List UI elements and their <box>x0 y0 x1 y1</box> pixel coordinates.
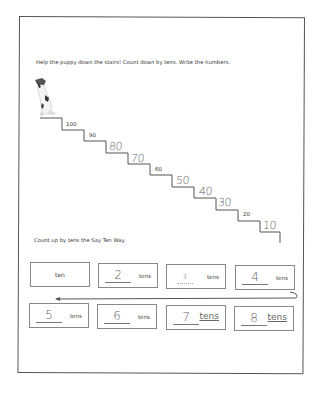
answer-blank[interactable]: 7 <box>173 310 199 325</box>
stair-number: 100 <box>66 121 77 127</box>
say-ten-box-1: ten <box>30 262 90 287</box>
stair-answer[interactable]: 80 <box>109 140 123 153</box>
answer-blank[interactable]: 3 <box>177 269 193 284</box>
stair-answer[interactable]: 70 <box>131 152 145 165</box>
say-ten-box-8: 8 tens <box>234 306 294 331</box>
stair-number: 20 <box>243 211 250 217</box>
unit-label: ten <box>31 271 89 278</box>
answer-blank[interactable]: 5 <box>36 308 62 323</box>
answer-blank[interactable]: 6 <box>104 309 130 324</box>
stair-number: 60 <box>155 166 162 172</box>
stair-number: 90 <box>89 132 96 138</box>
say-ten-box-7: 7 tens <box>166 305 226 330</box>
unit-label-handwritten[interactable]: tens <box>268 312 287 322</box>
say-ten-box-6: 6 tens <box>97 304 157 329</box>
puppy-icon <box>32 76 62 118</box>
say-ten-box-2: 2 tens <box>98 263 158 288</box>
answer-blank[interactable]: 8 <box>241 311 267 326</box>
stair-answer[interactable]: 40 <box>199 185 213 198</box>
unit-label: tens <box>138 314 150 320</box>
stair-answer[interactable]: 30 <box>218 196 232 209</box>
unit-label: tens <box>276 275 288 281</box>
unit-label-handwritten[interactable]: tens <box>200 311 219 321</box>
say-ten-box-3: 3 tens <box>166 264 226 289</box>
stair-answer[interactable]: 10 <box>263 219 277 232</box>
unit-label: tens <box>139 273 151 279</box>
say-ten-box-4: 4 tens <box>235 265 295 290</box>
unit-label: tens <box>207 274 219 280</box>
instruction-stairs: Help the puppy down the stairs! Count do… <box>36 59 230 65</box>
stair-answer[interactable]: 50 <box>176 174 190 187</box>
answer-blank[interactable]: 4 <box>242 270 268 285</box>
unit-label: tens <box>70 313 82 319</box>
say-ten-box-5: 5 tens <box>29 303 89 328</box>
instruction-say-ten: Count up by tens the Say Ten Way. <box>34 237 126 243</box>
answer-blank[interactable]: 2 <box>105 268 131 283</box>
